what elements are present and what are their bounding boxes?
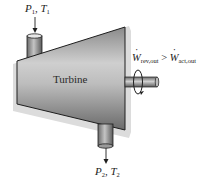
outlet-pressure-symbol: P — [95, 165, 102, 177]
outlet-pipe — [98, 124, 113, 148]
inlet-flow-arrow-icon — [33, 17, 38, 33]
turbine-diagram: Turbine P1, T1 P2, T2 Wrev,out > Wact,ou… — [0, 0, 209, 192]
inlet-state-label: P1, T1 — [25, 3, 50, 16]
work-relation-label: Wrev,out > Wact,out — [132, 53, 196, 65]
outlet-temperature-sub: 2 — [117, 171, 120, 178]
inlet-temperature-sub: 1 — [47, 8, 50, 15]
outlet-separator: , — [105, 165, 108, 177]
actual-work-symbol: W — [170, 52, 179, 63]
turbine-drawing — [0, 0, 209, 192]
outlet-flow-arrow-icon — [104, 148, 109, 164]
turbine-label: Turbine — [53, 73, 87, 85]
greater-than-operator: > — [161, 52, 167, 63]
reversible-work-symbol: W — [132, 52, 141, 63]
inlet-separator: , — [35, 2, 38, 14]
inlet-pressure-symbol: P — [25, 2, 32, 14]
outlet-state-label: P2, T2 — [95, 166, 120, 179]
reversible-work-sub: rev,out — [141, 57, 159, 64]
actual-work-sub: act,out — [178, 57, 196, 64]
